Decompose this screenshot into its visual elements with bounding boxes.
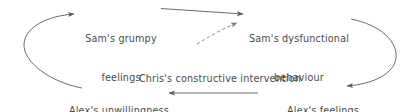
node-sams-grumpy-feelings-line1: Sam's grumpy	[83, 32, 159, 45]
edge-intervention-to-dysfunctional	[197, 23, 237, 44]
edge-dysfunctional-to-alexs-feelings	[347, 19, 396, 86]
edge-grumpy-to-dysfunctional	[161, 9, 243, 15]
node-alexs-feelings: Alex's feelings that Sam is hostile	[263, 78, 359, 112]
node-alexs-unwillingness-line1: Alex's unwillingness	[66, 104, 172, 112]
node-alexs-feelings-line1: Alex's feelings	[263, 104, 359, 112]
edge-unwillingness-to-grumpy	[24, 14, 82, 88]
causal-loop-diagram: Sam's dysfunctional behaviour --> Sam's …	[0, 0, 418, 112]
node-sams-dysfunctional-behaviour-line1: Sam's dysfunctional	[247, 32, 351, 45]
node-alexs-unwillingness: Alex's unwillingness to support Sam	[66, 78, 172, 112]
